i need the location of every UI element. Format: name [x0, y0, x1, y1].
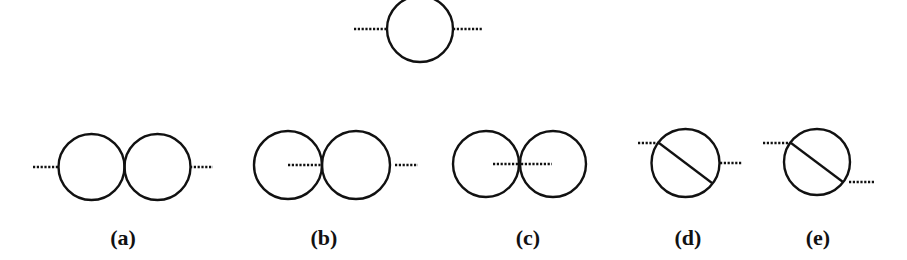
panel-label-b: (b)	[311, 225, 338, 250]
loop-circle-left	[59, 134, 125, 200]
panel-c: (c)	[453, 131, 586, 250]
panel-b: (b)	[254, 131, 418, 250]
internal-chord	[659, 143, 712, 183]
internal-chord	[791, 143, 843, 182]
panel-label-a: (a)	[110, 225, 136, 250]
panel-label-e: (e)	[806, 225, 830, 250]
diagram-figure: (a) (b) (c) (d) (e)	[0, 0, 907, 260]
top-one-loop-diagram	[354, 0, 483, 62]
panel-label-c: (c)	[516, 225, 540, 250]
panel-e: (e)	[763, 129, 874, 250]
loop-circle-right	[125, 134, 191, 200]
loop-circle	[387, 0, 453, 62]
panel-label-d: (d)	[675, 225, 702, 250]
loop-circle-right	[322, 131, 390, 199]
panel-a: (a)	[33, 134, 213, 250]
panel-d: (d)	[638, 129, 742, 250]
